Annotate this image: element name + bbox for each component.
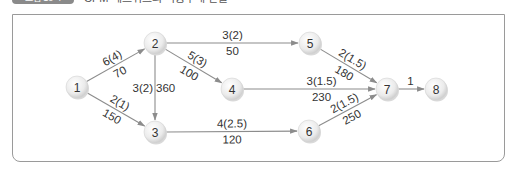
node-4: 4 [221,78,244,102]
node-6: 6 [298,120,321,144]
node-label: 1 [74,81,81,95]
edge-cost: 120 [222,133,241,145]
node-5: 5 [299,32,322,56]
node-label: 7 [384,83,391,97]
edge-cost: 230 [312,91,331,103]
network-diagram: 6(4)702(1)1503(2)3605(3)1003(2)504(2.5)1… [0,0,515,174]
edge-duration: 3(2) [133,82,154,94]
edge-cost: 250 [341,107,364,127]
node-label: 4 [229,83,236,97]
nodes-layer: 12345678 [66,32,448,145]
node-8: 8 [425,78,448,102]
edge-3-6 [166,131,297,132]
node-label: 8 [433,83,440,97]
edge-duration: 4(2.5) [217,117,247,129]
edge-cost: 360 [156,82,175,94]
node-1: 1 [66,76,89,100]
node-2: 2 [144,32,167,56]
node-3: 3 [144,121,167,145]
node-label: 3 [152,126,159,140]
edge-duration: 1 [407,75,413,87]
edge-duration: 3(2) [222,29,243,41]
node-label: 2 [152,37,159,51]
edge-cost: 50 [226,45,239,57]
node-7: 7 [376,78,399,102]
node-label: 6 [306,125,313,139]
edge-label-2-3: 3(2)360 [133,82,176,94]
edge-duration: 3(1.5) [306,75,336,87]
edge-label-7-8: 1 [407,75,413,87]
node-label: 5 [307,37,314,51]
